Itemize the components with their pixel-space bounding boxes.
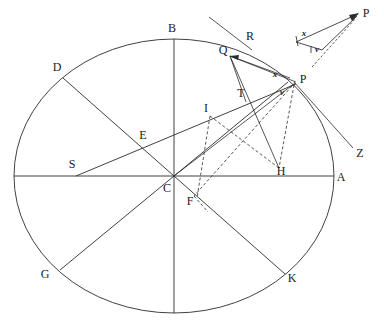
label-H: H [277,164,286,178]
label-P-inset: P [363,6,370,20]
inset-side-v [322,16,357,50]
label-x-inset: x [301,28,307,38]
label-G: G [41,267,50,281]
segment-c-to-p [174,83,295,176]
label-T: T [237,86,245,100]
label-A: A [337,170,346,184]
segment-q-to-upper-p [230,56,290,78]
point-label-group: A B D G K Q R P Z T I E S C F H P [41,6,370,285]
label-E: E [139,128,146,142]
chord-s-to-p [76,84,296,176]
dashed-p-to-f [194,86,292,196]
label-S: S [69,157,76,171]
label-R: R [246,29,254,43]
label-D: D [53,60,62,74]
label-K: K [288,271,297,285]
label-x-main: x [272,69,278,79]
label-F: F [187,194,194,208]
ray-p-to-z [294,82,353,148]
label-Q: Q [219,43,228,57]
label-I: I [204,101,208,115]
label-B: B [168,21,176,35]
label-C: C [163,181,171,195]
label-Z: Z [356,146,363,160]
label-P: P [300,72,307,86]
dashed-i-to-h [210,116,279,168]
dashed-p-to-h [279,85,294,168]
inset-dashed-ray [312,18,356,67]
figure-canvas: A B D G K Q R P Z T I E S C F H P x v x … [0,0,384,323]
geometry-figure: A B D G K Q R P Z T I E S C F H P x v x … [0,0,384,323]
